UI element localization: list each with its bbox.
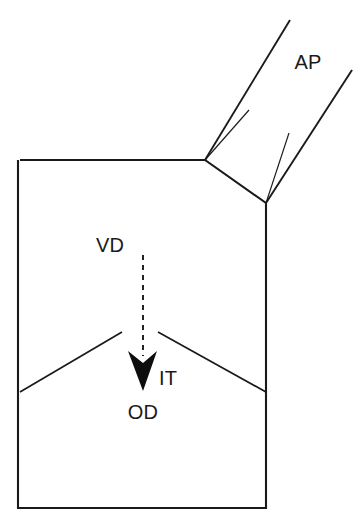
lower-branch-major-line bbox=[266, 70, 352, 203]
diagram-vector-graphic bbox=[0, 0, 361, 526]
lower-branch-minor-line bbox=[266, 133, 289, 203]
septum-left-line bbox=[20, 332, 122, 392]
upper-branch-major-line bbox=[205, 20, 290, 160]
label-ap: AP bbox=[294, 52, 321, 72]
body-outline-path bbox=[18, 160, 266, 508]
label-od: OD bbox=[128, 402, 158, 422]
diagram-canvas: AP VD IT OD bbox=[0, 0, 361, 526]
label-vd: VD bbox=[96, 235, 124, 255]
upper-branch-minor-line bbox=[205, 110, 249, 160]
flow-arrow-head bbox=[128, 351, 157, 391]
label-it: IT bbox=[159, 368, 177, 388]
